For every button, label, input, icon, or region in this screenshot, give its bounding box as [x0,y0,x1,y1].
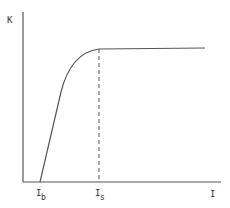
marker-is: I s [95,188,105,202]
k-curve [40,48,205,182]
y-axis-label: K [7,15,13,25]
diagram-canvas: K I I b I s [0,0,230,208]
marker-ib: I b [36,188,46,202]
marker-is-sub: s [100,193,105,202]
x-axis-label: I [210,189,215,199]
saturation-curve-diagram: K I I b I s [0,0,230,208]
marker-ib-sub: b [41,193,46,202]
